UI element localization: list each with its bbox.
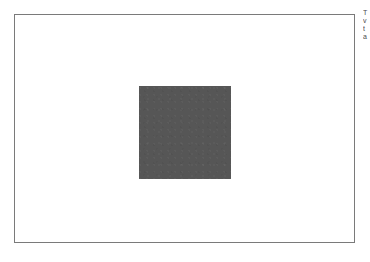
margin-annotation-line: T	[363, 9, 370, 17]
margin-annotation-line: t	[363, 25, 370, 33]
margin-annotation-text: T v t a	[363, 9, 370, 41]
margin-annotation-line: v	[363, 17, 370, 25]
gray-square	[139, 86, 231, 179]
margin-annotation-line: a	[363, 33, 370, 41]
figure-canvas	[14, 14, 355, 243]
page-surface: T v t a	[0, 0, 370, 262]
